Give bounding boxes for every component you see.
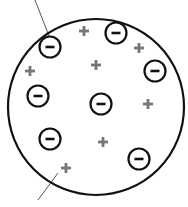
electron-icon (106, 23, 127, 44)
plum-pudding-diagram (0, 0, 188, 207)
proton-icon (79, 26, 89, 36)
proton-icon (98, 137, 108, 147)
electron-icon (40, 37, 61, 58)
electrons-group (28, 23, 166, 170)
electron-icon (28, 86, 49, 107)
electron-icon (145, 61, 166, 82)
electron-icon (129, 149, 150, 170)
proton-icon (61, 163, 71, 173)
leader-line-electron (35, 0, 49, 36)
proton-icon (91, 60, 101, 70)
electron-icon (40, 129, 61, 150)
proton-icon (134, 43, 144, 53)
proton-icon (25, 66, 35, 76)
electron-icon (91, 94, 112, 115)
proton-icon (143, 99, 153, 109)
